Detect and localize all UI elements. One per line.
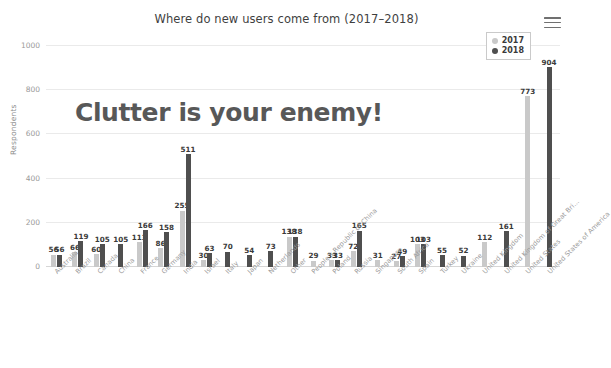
bar-2017[interactable]: 56 — [51, 255, 56, 267]
bar-value-label: 54 — [244, 247, 254, 254]
bar-value-label: 773 — [520, 88, 535, 95]
bar-2018[interactable]: 511 — [186, 154, 191, 267]
bar-group: 60105 — [92, 46, 113, 267]
bars-layer: 5656661196010510511316686158255511306370… — [46, 46, 560, 267]
legend-swatch-icon — [492, 38, 498, 44]
bar-group: 3063 — [199, 46, 220, 267]
y-tick-label: 200 — [26, 217, 40, 226]
legend-item-2018[interactable]: 2018 — [492, 46, 524, 55]
y-tick-label: 0 — [35, 262, 40, 271]
y-tick-label: 600 — [26, 129, 40, 138]
legend-item-2017[interactable]: 2017 — [492, 36, 524, 45]
bar-value-label: 73 — [266, 243, 276, 250]
legend-label: 2018 — [502, 46, 524, 55]
bar-group: 255511 — [178, 46, 199, 267]
bar-group: 5656 — [49, 46, 70, 267]
bar-value-label: 904 — [542, 59, 557, 66]
bar-group: 54 — [242, 46, 263, 267]
y-tick-label: 400 — [26, 173, 40, 182]
bar-group: 86158 — [156, 46, 177, 267]
bar-2017[interactable]: 773 — [525, 96, 530, 267]
bar-group: 55 — [435, 46, 456, 267]
bar-value-label: 158 — [159, 224, 174, 231]
bar-value-label: 56 — [54, 246, 64, 253]
bar-group: 113166 — [135, 46, 156, 267]
bar-value-label: 112 — [477, 234, 492, 241]
bar-group: 103103 — [413, 46, 434, 267]
bar-value-label: 105 — [113, 236, 128, 243]
bar-group: 66119 — [70, 46, 91, 267]
bar-2017[interactable]: 60 — [94, 254, 99, 267]
y-tick-label: 800 — [26, 85, 40, 94]
bar-group: 2749 — [392, 46, 413, 267]
y-tick-label: 1000 — [21, 41, 40, 50]
bar-value-label: 29 — [308, 252, 318, 259]
bar-value-label: 55 — [437, 247, 447, 254]
bar-value-label: 138 — [288, 228, 303, 235]
hamburger-bar-1 — [544, 17, 561, 19]
bar-value-label: 70 — [223, 243, 233, 250]
bar-group: 31 — [370, 46, 391, 267]
bar-value-label: 166 — [138, 222, 153, 229]
legend-label: 2017 — [502, 36, 524, 45]
bar-value-label: 63 — [204, 245, 214, 252]
bar-value-label: 105 — [95, 236, 110, 243]
bar-value-label: 31 — [373, 252, 383, 259]
bar-group: 138138 — [285, 46, 306, 267]
chart-annotation: Clutter is your enemy! — [75, 98, 383, 127]
bar-group: 52 — [456, 46, 477, 267]
bar-group: 112 — [477, 46, 498, 267]
bar-2018[interactable]: 904 — [547, 67, 552, 267]
plot-area: 02004006008001000 5656661196010510511316… — [46, 46, 560, 267]
y-axis-title: Respondents — [9, 104, 18, 155]
hamburger-bar-3 — [544, 27, 561, 29]
bar-value-label: 511 — [180, 146, 195, 153]
bar-group: 29 — [306, 46, 327, 267]
bar-value-label: 161 — [499, 223, 514, 230]
x-axis-labels: AustraliaBrazilCanadaChinaFranceGermanyI… — [46, 270, 560, 366]
bar-value-label: 119 — [73, 233, 88, 240]
hamburger-menu-icon[interactable] — [544, 17, 561, 31]
bar-2017[interactable]: 113 — [137, 242, 142, 267]
legend-swatch-icon — [492, 48, 498, 54]
chart-legend[interactable]: 20172018 — [486, 32, 531, 60]
bar-2017[interactable]: 27 — [394, 261, 399, 267]
bar-group: 70 — [220, 46, 241, 267]
chart-title: Where do new users come from (2017–2018) — [0, 12, 573, 26]
bar-value-label: 52 — [458, 247, 468, 254]
hamburger-bar-2 — [544, 22, 561, 24]
